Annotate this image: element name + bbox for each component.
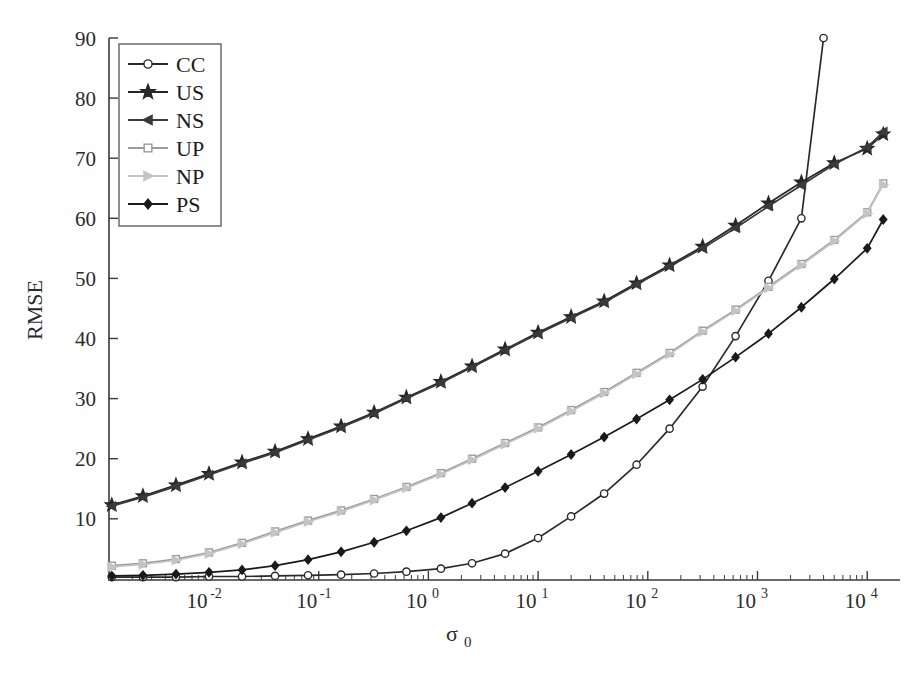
series-marker-diamond xyxy=(732,353,739,362)
legend-label: NS xyxy=(176,108,204,133)
svg-text:10: 10 xyxy=(516,589,537,613)
svg-text:4: 4 xyxy=(871,586,878,601)
svg-text:-2: -2 xyxy=(210,586,222,601)
y-tick-label: 50 xyxy=(75,267,96,291)
series-marker-circle xyxy=(501,550,508,557)
svg-text:3: 3 xyxy=(761,586,768,601)
series-marker-circle xyxy=(732,332,739,339)
series-marker-circle xyxy=(600,490,607,497)
legend-label: PS xyxy=(176,192,200,217)
series-marker-circle xyxy=(144,60,152,68)
legend-group: CCUSNSUPNPPS xyxy=(119,44,221,226)
y-tick-label: 40 xyxy=(75,327,96,351)
series-ps xyxy=(108,215,886,580)
series-marker-circle xyxy=(534,534,541,541)
series-marker-circle xyxy=(666,425,673,432)
series-marker-diamond xyxy=(633,415,640,424)
series-line-us xyxy=(112,134,883,505)
legend-label: US xyxy=(176,80,204,105)
series-marker-circle xyxy=(468,560,475,567)
series-marker-diamond xyxy=(469,499,476,508)
svg-text:10: 10 xyxy=(406,589,427,613)
svg-text:0: 0 xyxy=(464,634,472,650)
series-np xyxy=(108,181,888,571)
x-tick-label: 103 xyxy=(735,586,768,613)
svg-text:1: 1 xyxy=(542,586,549,601)
series-line-up xyxy=(112,183,883,565)
series-line-ps xyxy=(112,220,883,576)
y-axis-title: RMSE xyxy=(22,280,47,340)
series-marker-diamond xyxy=(371,538,378,547)
series-marker-circle xyxy=(271,572,278,579)
svg-text:2: 2 xyxy=(651,586,658,601)
x-tick-label: 104 xyxy=(845,586,878,613)
y-tick-label: 10 xyxy=(75,507,96,531)
svg-text:0: 0 xyxy=(432,586,439,601)
y-tick-label: 70 xyxy=(75,147,96,171)
axis-spine xyxy=(109,38,900,580)
series-marker-diamond xyxy=(502,483,509,492)
series-marker-circle xyxy=(337,571,344,578)
svg-text:10: 10 xyxy=(735,589,756,613)
series-marker-circle xyxy=(370,570,377,577)
series-up xyxy=(108,180,886,569)
svg-text:-1: -1 xyxy=(320,586,332,601)
series-marker-diamond xyxy=(305,555,312,564)
chart-canvas: 10203040506070809010-210-110010110210310… xyxy=(0,0,923,678)
series-marker-circle xyxy=(437,565,444,572)
series-marker-diamond xyxy=(601,433,608,442)
x-tick-label: 100 xyxy=(406,586,439,613)
y-tick-label: 20 xyxy=(75,447,96,471)
series-marker-square xyxy=(144,144,152,152)
svg-text:σ: σ xyxy=(446,621,458,646)
svg-text:10: 10 xyxy=(625,589,646,613)
legend-box xyxy=(119,44,221,226)
x-tick-label: 10-1 xyxy=(296,586,331,613)
series-ns xyxy=(107,128,887,511)
series-marker-diamond xyxy=(535,467,542,476)
x-axis-title: σ0 xyxy=(446,621,471,650)
series-marker-circle xyxy=(798,215,805,222)
legend-label: NP xyxy=(176,164,204,189)
series-marker-diamond xyxy=(437,513,444,522)
x-tick-label: 102 xyxy=(625,586,658,613)
series-marker-diamond xyxy=(568,450,575,459)
x-tick-label: 101 xyxy=(516,586,549,613)
series-marker-diamond xyxy=(403,527,410,536)
series-marker-circle xyxy=(304,572,311,579)
legend-label: UP xyxy=(176,136,204,161)
series-marker-diamond xyxy=(272,561,279,570)
series-marker-circle xyxy=(403,568,410,575)
series-us xyxy=(105,127,889,510)
svg-text:10: 10 xyxy=(845,589,866,613)
y-tick-label: 60 xyxy=(75,207,96,231)
series-group xyxy=(105,34,889,580)
series-line-ns xyxy=(112,132,883,506)
series-marker-diamond xyxy=(238,566,245,575)
series-marker-circle xyxy=(820,34,827,41)
legend-label: CC xyxy=(176,52,205,77)
series-marker-circle xyxy=(567,513,574,520)
series-line-np xyxy=(112,185,883,567)
y-tick-label: 30 xyxy=(75,387,96,411)
y-tick-label: 80 xyxy=(75,87,96,111)
series-marker-circle xyxy=(633,461,640,468)
svg-text:10: 10 xyxy=(296,589,317,613)
series-marker-diamond xyxy=(666,396,673,405)
series-marker-diamond xyxy=(338,548,345,557)
y-tick-label: 90 xyxy=(75,27,96,51)
chart-figure: 10203040506070809010-210-110010110210310… xyxy=(0,0,923,678)
x-tick-label: 10-2 xyxy=(187,586,222,613)
svg-text:10: 10 xyxy=(187,589,208,613)
